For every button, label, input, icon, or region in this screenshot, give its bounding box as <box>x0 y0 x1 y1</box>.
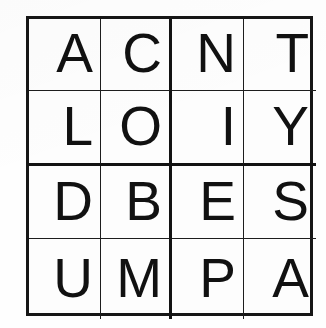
grid-cell-r1c3[interactable]: N <box>172 19 244 91</box>
cell-letter: P <box>199 251 236 306</box>
grid-cell-r4c4[interactable]: A <box>244 239 316 319</box>
page-canvas: A C N T L O I Y D B E <box>0 0 326 328</box>
grid-cell-r2c2[interactable]: O <box>101 91 172 166</box>
cell-letter: E <box>199 174 236 229</box>
grid-cell-r1c4[interactable]: T <box>244 19 316 91</box>
cell-letter: T <box>275 26 309 81</box>
grid-cell-r4c2[interactable]: M <box>101 239 172 319</box>
grid-cell-r2c4[interactable]: Y <box>244 91 316 166</box>
cell-letter: L <box>62 99 93 154</box>
cell-letter: C <box>122 26 162 81</box>
cell-letter: A <box>272 251 309 306</box>
grid-cell-r1c2[interactable]: C <box>101 19 172 91</box>
cell-letter: U <box>53 251 93 306</box>
letter-grid: A C N T L O I Y D B E <box>26 16 313 316</box>
grid-cell-r3c3[interactable]: E <box>172 166 244 239</box>
grid-cell-r3c4[interactable]: S <box>244 166 316 239</box>
grid-cell-r2c1[interactable]: L <box>29 91 101 166</box>
cell-letter: S <box>272 174 309 229</box>
cell-letter: A <box>56 26 93 81</box>
grid-cell-r3c1[interactable]: D <box>29 166 101 239</box>
cell-letter: D <box>53 174 93 229</box>
grid-cell-r3c2[interactable]: B <box>101 166 172 239</box>
grid-cell-r4c1[interactable]: U <box>29 239 101 319</box>
grid-cell-r2c3[interactable]: I <box>172 91 244 166</box>
cell-letter: O <box>119 99 162 154</box>
cell-letter: N <box>196 26 236 81</box>
grid-cell-r1c1[interactable]: A <box>29 19 101 91</box>
cell-letter: Y <box>272 99 309 154</box>
cell-letter: I <box>221 99 236 154</box>
cell-letter: B <box>125 174 162 229</box>
cell-letter: M <box>116 251 162 306</box>
grid-cell-r4c3[interactable]: P <box>172 239 244 319</box>
